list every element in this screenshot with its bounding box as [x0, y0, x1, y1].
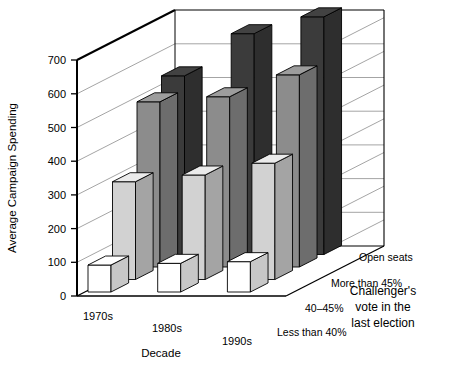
bar-1980s-3-side: [230, 88, 248, 267]
x-tick-label-1980s: 1980s: [152, 322, 182, 334]
bar-1970s-2-side: [136, 173, 154, 280]
x-tick-labels: 1970s 1980s 1990s: [83, 310, 252, 347]
depth-axis-title-line2: vote in the: [355, 300, 411, 314]
bar-1990s-3-side: [299, 66, 317, 267]
chart-figure: 0 100 200 300 400 500 600 700 1970s 1980…: [0, 0, 454, 379]
x-axis-title: Decade: [141, 347, 181, 359]
y-tick-label: 300: [48, 189, 66, 201]
depth-label-open-seats: Open seats: [359, 251, 413, 263]
depth-label-40-45: 40–45%: [305, 302, 344, 314]
x-tick-label-1990s: 1990s: [222, 335, 252, 347]
y-tick-label: 0: [60, 290, 66, 302]
bar3d-chart-svg: 0 100 200 300 400 500 600 700 1970s 1980…: [0, 0, 454, 379]
bar-1970s-1-front: [88, 265, 111, 292]
y-tick-label: 400: [48, 155, 66, 167]
y-tick-labels: 0 100 200 300 400 500 600 700: [48, 54, 66, 302]
depth-axis-title: Challenger's vote in the last election: [350, 284, 416, 330]
bar-1980s-2-side: [205, 166, 223, 280]
depth-label-less-than-40: Less than 40%: [277, 326, 346, 338]
y-axis-title: Average Campaign Spending: [6, 103, 18, 253]
depth-axis-title-line3: last election: [351, 316, 414, 330]
y-tick-label: 700: [48, 54, 66, 66]
y-tick-label: 500: [48, 122, 66, 134]
x-tick-label-1970s: 1970s: [83, 310, 113, 322]
bar-1990s-1-front: [227, 262, 250, 292]
depth-axis-title-line1: Challenger's: [350, 284, 416, 298]
y-tick-label: 600: [48, 88, 66, 100]
bar-1970s-3-side: [160, 93, 178, 267]
y-tick-label: 100: [48, 256, 66, 268]
y-tick-label: 200: [48, 223, 66, 235]
bar-1990s-4-side: [324, 8, 342, 255]
bar-1990s-2-side: [275, 154, 293, 279]
bar-1980s-1-front: [158, 263, 181, 292]
